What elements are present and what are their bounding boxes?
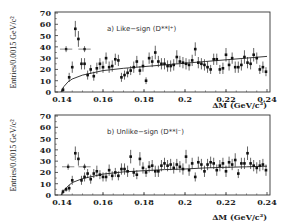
data-point [80, 179, 83, 182]
data-point [249, 62, 252, 65]
y-tick-label: 50 [40, 134, 52, 144]
y-tick-label: 10 [40, 76, 52, 86]
data-point [212, 162, 215, 165]
y-tick-label: 60 [40, 122, 52, 132]
data-point [145, 79, 148, 82]
data-point [99, 62, 102, 65]
y-tick-label: 50 [40, 31, 52, 41]
data-point [194, 176, 197, 179]
data-point [139, 69, 142, 72]
data-point [172, 64, 175, 67]
data-point [105, 57, 108, 60]
data-point [108, 169, 111, 172]
data-point [215, 58, 218, 61]
data-point [151, 60, 154, 63]
data-point [252, 53, 255, 56]
data-point [255, 167, 258, 170]
data-point [243, 162, 246, 165]
data-point [108, 66, 111, 69]
data-point [240, 162, 243, 165]
data-point [169, 163, 172, 166]
data-point [228, 161, 231, 164]
data-point [219, 164, 222, 167]
data-point [148, 57, 151, 60]
data-point [86, 74, 89, 77]
data-point [102, 176, 105, 179]
data-point [160, 164, 163, 167]
data-point [228, 64, 231, 67]
data-point [259, 68, 262, 71]
data-point [86, 172, 89, 175]
data-point [92, 172, 95, 175]
data-point [83, 176, 86, 179]
x-tick-label: 0.18 [134, 94, 154, 104]
data-point [182, 61, 185, 64]
data-point [209, 68, 212, 71]
data-point [234, 66, 237, 69]
y-tick-label: 30 [40, 156, 52, 166]
data-point [222, 162, 225, 165]
data-point [265, 169, 268, 172]
data-point [96, 170, 99, 173]
data-point [83, 166, 85, 168]
data-point [62, 88, 65, 91]
x-tick-label: 0.22 [216, 197, 235, 207]
data-point [185, 155, 188, 158]
y-tick-label: 70 [40, 8, 52, 18]
data-point [154, 51, 157, 54]
data-point [194, 48, 197, 51]
data-point [148, 165, 151, 168]
data-point [169, 65, 172, 68]
data-point [255, 57, 258, 60]
data-point [120, 76, 123, 79]
data-point [136, 173, 139, 176]
data-point [65, 48, 67, 50]
data-point [71, 179, 74, 182]
y-tick-label: 40 [40, 42, 52, 52]
x-tick-label: 0.18 [134, 197, 154, 207]
x-tick-label: 0.16 [93, 94, 113, 104]
data-point [117, 175, 120, 178]
data-point [114, 58, 117, 61]
data-point [74, 152, 77, 155]
data-point [65, 188, 68, 191]
data-point [200, 163, 203, 166]
data-point [197, 161, 200, 164]
data-point [92, 75, 95, 78]
data-point [83, 48, 85, 50]
y-axis-label: Entries/0.0015 GeV/c² [9, 16, 18, 89]
data-point [163, 162, 166, 165]
data-point [246, 152, 249, 155]
data-point [182, 168, 185, 171]
data-point [249, 162, 252, 165]
data-point [67, 166, 69, 168]
data-point [212, 58, 215, 61]
data-point [68, 76, 71, 79]
data-point [243, 56, 246, 59]
data-point [231, 57, 234, 60]
data-point [89, 178, 92, 181]
y-tick-label: 40 [40, 145, 52, 155]
panel-label: a) Like−sign (D**l⁺) [107, 25, 177, 33]
data-point [188, 169, 191, 172]
y-tick-label: 0 [45, 190, 51, 200]
data-point [206, 66, 209, 69]
data-point [132, 171, 135, 174]
x-tick-label: 0.14 [52, 94, 72, 104]
data-point [237, 172, 240, 175]
data-point [126, 170, 129, 173]
panel-label: b) Unlike−sign (D**l⁻) [107, 128, 184, 136]
data-point [231, 163, 234, 166]
data-point [123, 168, 126, 171]
y-tick-label: 10 [40, 179, 52, 189]
data-point [225, 170, 228, 173]
data-point [252, 164, 255, 167]
data-point [89, 68, 92, 71]
data-point [126, 72, 129, 75]
data-point [237, 66, 240, 69]
data-point [191, 162, 194, 165]
data-point [142, 167, 145, 170]
data-point [206, 163, 209, 166]
data-point [259, 164, 262, 167]
data-point [166, 164, 169, 167]
